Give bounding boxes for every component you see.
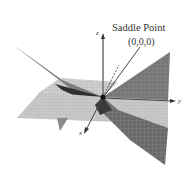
x-axis-label: x — [79, 130, 82, 137]
x-axis-arrow — [84, 127, 89, 134]
saddle-point-coordinates: (0,0,0) — [128, 37, 155, 47]
saddle-point-label: Saddle Point — [112, 23, 165, 34]
surface-underside-flap — [57, 118, 68, 131]
y-axis-label: y — [178, 98, 181, 105]
y-axis-arrow — [170, 99, 176, 103]
saddle-point-figure: Saddle Point (0,0,0) z y x — [0, 0, 193, 176]
z-axis-arrow — [101, 33, 105, 39]
saddle-surface-right-upper — [103, 52, 170, 100]
saddle-point-marker — [100, 94, 105, 99]
z-axis-label: z — [96, 30, 99, 37]
